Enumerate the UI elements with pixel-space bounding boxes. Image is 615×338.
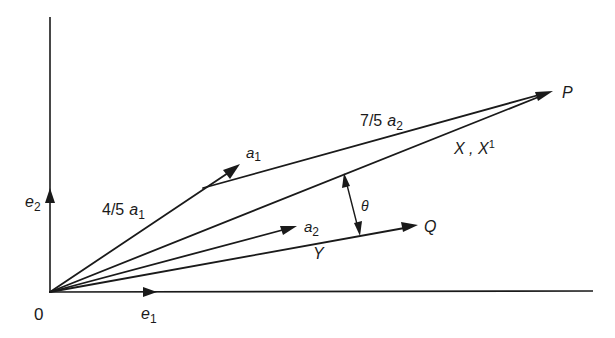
theta-label: θ: [361, 198, 369, 214]
vector-diagram: 0 e1 e2 a1 4/5a1 7/5a2 a2 P Q X , X1 Y θ: [0, 0, 615, 338]
a1-arrowhead-icon: [223, 164, 240, 179]
x-axis: [50, 291, 593, 292]
q-arrowhead-icon: [401, 222, 418, 232]
a2-scaled-label: 7/5a2: [360, 112, 403, 133]
x-line-label: X , X1: [453, 138, 495, 157]
e1-arrowhead-icon: [143, 287, 157, 297]
p-arrowhead-icon: [535, 91, 553, 101]
e2-label: e2: [25, 193, 41, 214]
q-label: Q: [424, 218, 436, 235]
y-vector-line: [50, 227, 410, 292]
theta-arrowhead-bottom-icon: [354, 221, 362, 236]
a2-arrowhead-icon: [280, 226, 297, 235]
theta-angle-line: [346, 181, 358, 228]
a2-label: a2: [304, 218, 319, 239]
e1-label: e1: [141, 305, 157, 326]
e2-arrowhead-icon: [45, 188, 55, 203]
y-line-label: Y: [313, 245, 325, 262]
a1-scaled-label: 4/5a1: [102, 201, 145, 222]
origin-label: 0: [34, 305, 43, 324]
a1-label: a1: [246, 144, 261, 164]
a2-vector-line: [50, 228, 290, 292]
x-vector-line: [50, 94, 546, 292]
p-label: P: [562, 84, 573, 101]
